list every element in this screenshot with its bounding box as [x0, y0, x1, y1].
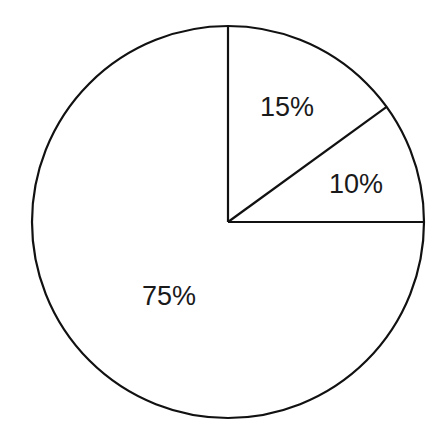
slice-label-10: 10% [329, 169, 383, 199]
slice-label-15: 15% [260, 92, 314, 122]
slice-label-75: 75% [142, 281, 196, 311]
pie-chart: 15% 10% 75% [0, 0, 446, 437]
